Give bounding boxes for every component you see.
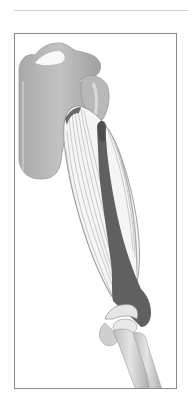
arm-anatomy-illustration [14,33,177,389]
forearm-bones [113,329,163,389]
illustration-frame: Anatomical illustration of the upper arm… [14,33,177,389]
top-divider-rule [14,10,188,11]
